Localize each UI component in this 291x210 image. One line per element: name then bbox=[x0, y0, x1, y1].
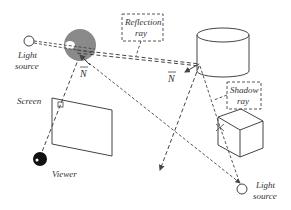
primary-ray-line bbox=[40, 60, 78, 157]
light-source-right-label-1: Light bbox=[255, 180, 276, 190]
cylinder bbox=[197, 28, 249, 77]
light-source-right-icon bbox=[237, 184, 247, 194]
screen-label: Screen bbox=[17, 96, 42, 106]
light-source-left-label-2: source bbox=[15, 61, 39, 71]
reflection-ray-label-1: Reflection bbox=[124, 17, 162, 27]
light-source-left-label-1: Light bbox=[17, 50, 38, 60]
cube bbox=[218, 109, 263, 157]
shadow-ray-label-1: Shadow bbox=[230, 85, 259, 95]
viewer-label: Viewer bbox=[52, 169, 77, 179]
normal-label-sphere: N bbox=[79, 68, 88, 79]
reflection-ray-line bbox=[77, 50, 200, 64]
reflection-ray-label-2: ray bbox=[135, 28, 147, 38]
reflection-ray-line bbox=[77, 53, 200, 66]
refraction-ray-line bbox=[160, 66, 199, 170]
shadow-ray-continued-line bbox=[220, 127, 238, 178]
viewer-eye-icon bbox=[33, 152, 47, 166]
ray-tracing-diagram: Light source N Reflection ray N Shadow r… bbox=[0, 0, 291, 210]
screen-pixel bbox=[58, 102, 63, 107]
shadow-ray-label-2: ray bbox=[237, 96, 249, 106]
light-source-right-label-2: source bbox=[253, 191, 277, 201]
sphere bbox=[64, 29, 96, 61]
light-source-left-icon bbox=[24, 36, 34, 46]
normal-label-cylinder: N bbox=[167, 73, 176, 84]
